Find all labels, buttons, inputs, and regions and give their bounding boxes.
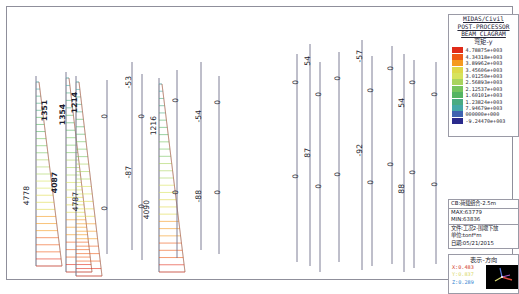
legend-value: 1.60101e+003 bbox=[466, 92, 503, 98]
moment-value-label: 1351 bbox=[40, 100, 49, 121]
moment-value-label: 0 bbox=[333, 76, 342, 81]
moment-value-label: 0 bbox=[366, 88, 375, 93]
moment-value-label: 1216 bbox=[149, 116, 158, 135]
moment-value-label: 0 bbox=[430, 182, 439, 187]
moment-value-label: -54 bbox=[194, 110, 203, 122]
moment-value-label: 0 bbox=[386, 66, 395, 71]
moment-value-label: 4087 bbox=[50, 172, 59, 193]
legend-color-scale: 4.78875e+0034.34318e+0033.89962e+0033.45… bbox=[449, 47, 518, 124]
legend-value: 4.34318e+003 bbox=[466, 54, 503, 60]
min-value-label: MIN:63836 bbox=[449, 216, 518, 224]
beam-diagram-canvas[interactable]: 13514778121440871354478700-53-8700121640… bbox=[14, 14, 446, 286]
legend-swatch bbox=[452, 60, 463, 66]
moment-diagram-m7 bbox=[159, 84, 185, 272]
legend-swatch bbox=[452, 73, 463, 79]
max-value-label: MAX:63779 bbox=[449, 209, 518, 217]
moment-value-label: 0 bbox=[213, 190, 222, 195]
moment-value-label: 54 bbox=[397, 98, 406, 108]
legend-title-line-1: MIDAS/Civil bbox=[449, 15, 518, 23]
direction-values: X:0.483 Y:0.837 Z:0.289 bbox=[449, 264, 486, 289]
legend-subtitle: 弯矩-y bbox=[449, 38, 518, 46]
moment-value-label: 0 bbox=[213, 100, 222, 105]
moment-value-label: 54 bbox=[303, 56, 312, 66]
direction-content: X:0.483 Y:0.837 Z:0.289 bbox=[449, 264, 518, 289]
moment-value-label: 0 bbox=[171, 98, 180, 103]
moment-value-label: 1354 bbox=[58, 104, 67, 125]
moment-value-label: 4787 bbox=[71, 192, 80, 211]
legend-value: 3.45606e+003 bbox=[466, 67, 503, 73]
moment-value-label: -87 bbox=[124, 166, 133, 178]
moment-value-label: 0 bbox=[430, 92, 439, 97]
legend-swatch bbox=[452, 67, 463, 73]
legend-swatch bbox=[452, 86, 463, 92]
moment-value-label: 4090 bbox=[142, 200, 151, 219]
moment-value-label: 1214 bbox=[70, 92, 79, 113]
view-direction-panel[interactable]: 表示-方向 X:0.483 Y:0.837 Z:0.289 bbox=[448, 254, 519, 294]
legend-value: 3.01250e+003 bbox=[466, 73, 503, 79]
moment-value-label: 0 bbox=[386, 162, 395, 167]
moment-value-label: -53 bbox=[124, 76, 133, 88]
legend-value: 7.94679e+003 bbox=[466, 105, 503, 111]
legend-value: 4.78875e+003 bbox=[466, 47, 503, 53]
moment-value-label: 0 bbox=[314, 184, 323, 189]
legend-row: -9.24470e+003 bbox=[449, 117, 518, 123]
moment-value-label: 0 bbox=[408, 170, 417, 175]
moment-value-label: 0 bbox=[366, 180, 375, 185]
date-label: 日期:05/21/2015 bbox=[449, 240, 518, 248]
moment-value-label: -88 bbox=[194, 190, 203, 202]
moment-value-label: 4778 bbox=[22, 186, 31, 205]
legend-value: 2.12537e+003 bbox=[466, 86, 503, 92]
legend-swatch bbox=[452, 47, 463, 53]
legend-swatch bbox=[452, 79, 463, 85]
unit-label: 单位:tonf*m bbox=[449, 232, 518, 240]
axis-triad-preview[interactable] bbox=[486, 265, 518, 289]
moment-value-label: 0 bbox=[291, 80, 300, 85]
legend-swatch bbox=[452, 118, 463, 124]
moment-value-label: 87 bbox=[303, 148, 312, 158]
moment-value-label: -57 bbox=[355, 50, 364, 62]
beam-diagram-svg bbox=[14, 14, 446, 286]
moment-value-label: -92 bbox=[355, 144, 364, 156]
legend-swatch bbox=[452, 99, 463, 105]
moment-value-label: 0 bbox=[291, 174, 300, 179]
moment-value-label: 0 bbox=[100, 114, 109, 119]
analysis-info-panel: CB:荷载组合-2.5m MAX:63779 MIN:63836 文件:工况2-… bbox=[448, 199, 519, 249]
legend-title-line-3: BEAM CLAGRAM bbox=[449, 30, 518, 38]
load-case-label: CB:荷载组合-2.5m bbox=[449, 200, 518, 208]
moment-value-label: 0 bbox=[314, 92, 323, 97]
direction-panel-title: 表示-方向 bbox=[449, 255, 518, 264]
viewport-frame: 13514778121440871354478700-53-8700121640… bbox=[6, 6, 513, 280]
legend-swatch bbox=[452, 92, 463, 98]
moment-value-label: 0 bbox=[408, 80, 417, 85]
legend-value: 3.89962e+003 bbox=[466, 60, 503, 66]
legend-value: 000000e+000 bbox=[466, 111, 500, 117]
legend-swatch bbox=[452, 54, 463, 60]
axis-triad-icon bbox=[486, 265, 518, 289]
legend-value: 1.23824e+003 bbox=[466, 99, 503, 105]
moment-value-label: 88 bbox=[397, 184, 406, 194]
legend-value: -9.24470e+003 bbox=[466, 118, 506, 124]
moment-value-label: 0 bbox=[333, 172, 342, 177]
legend-swatch bbox=[452, 111, 463, 117]
direction-z-value: Z:0.289 bbox=[452, 279, 486, 286]
legend-title-line-2: POST-PROCESSOR bbox=[449, 23, 518, 31]
direction-y-value: Y:0.837 bbox=[452, 271, 486, 278]
direction-x-value: X:0.483 bbox=[452, 264, 486, 271]
legend-panel: MIDAS/Civil POST-PROCESSOR BEAM CLAGRAM … bbox=[448, 14, 519, 137]
legend-swatch bbox=[452, 105, 463, 111]
moment-value-label: 0 bbox=[137, 114, 146, 119]
legend-value: 2.56893e+003 bbox=[466, 79, 503, 85]
moment-value-label: 0 bbox=[171, 190, 180, 195]
legend-sidebar: MIDAS/Civil POST-PROCESSOR BEAM CLAGRAM … bbox=[448, 14, 519, 286]
moment-value-label: 0 bbox=[100, 206, 109, 211]
